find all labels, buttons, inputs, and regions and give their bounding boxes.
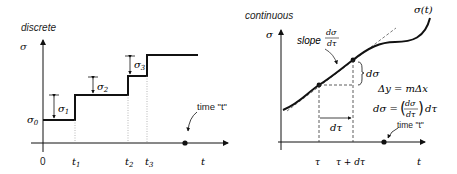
t2-label: t2: [125, 156, 134, 169]
t3-label: t3: [145, 156, 154, 169]
x-axis-label-right: t: [417, 156, 422, 167]
sigma1-label: σ1: [58, 103, 69, 116]
time-marker-right: [381, 139, 386, 144]
equation-1: Δy = mΔx: [377, 83, 428, 94]
continuous-panel: continuous σ dσ dτ slope dσ dτ σ(t) Δy =…: [245, 4, 437, 167]
origin-label: 0: [40, 156, 46, 167]
equation-2-num: dσ: [405, 99, 416, 108]
sigma0-label: σ0: [27, 114, 39, 127]
tau-dtau-label: τ + dτ: [336, 157, 366, 167]
svg-text:): ): [418, 99, 424, 117]
dtau-label: dτ: [330, 122, 342, 133]
y-axis-label-right: σ: [266, 29, 274, 40]
continuous-title: continuous: [245, 10, 293, 21]
slope-label: slope: [297, 35, 321, 46]
sigma3-label: σ3: [134, 59, 146, 72]
svg-text:(: (: [400, 99, 406, 117]
time-marker: [182, 140, 187, 145]
equation-2-den: dτ: [406, 110, 416, 119]
time-annotation-right: time "t": [397, 120, 424, 130]
y-axis-label: σ: [20, 41, 28, 52]
sigma2-label: σ2: [97, 81, 109, 94]
equation-2-lhs: dσ =: [373, 103, 398, 114]
slope-den: dτ: [327, 39, 337, 48]
x-axis-label: t: [201, 156, 206, 167]
discrete-title: discrete: [21, 22, 56, 33]
diagram-canvas: discrete σ σ1 σ2 σ3 σ0 0 t1 t2 t3 t time…: [0, 0, 457, 174]
t1-label: t1: [72, 156, 81, 169]
discrete-panel: discrete σ σ1 σ2 σ3 σ0 0 t1 t2 t3 t time…: [20, 22, 228, 169]
tau-label: τ: [315, 157, 321, 167]
slope-num: dσ: [326, 28, 337, 37]
time-annotation: time "t": [197, 101, 227, 112]
sigma-curve: [283, 18, 430, 110]
equation-2-rhs: dτ: [425, 103, 437, 114]
curve-label: σ(t): [414, 4, 433, 15]
dsigma-label: dσ: [366, 68, 380, 79]
